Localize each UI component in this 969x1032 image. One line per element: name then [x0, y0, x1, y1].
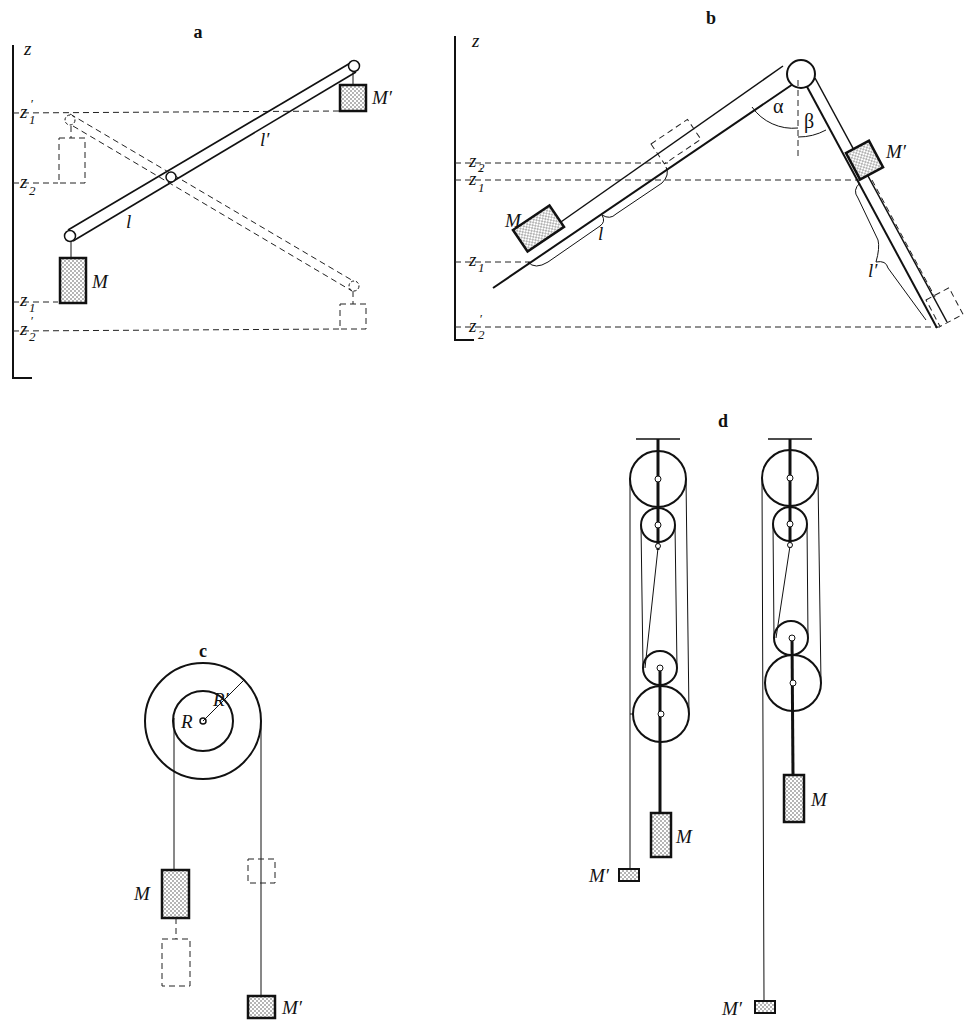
length-l-label: l — [598, 223, 603, 244]
mass-m — [60, 258, 86, 303]
mass-m-prime — [248, 996, 275, 1018]
lever-dashed — [65, 114, 359, 291]
svg-text:′: ′ — [479, 311, 482, 326]
alpha-label: α — [773, 95, 784, 117]
svg-text:′: ′ — [30, 96, 33, 111]
pulley-icon — [787, 60, 815, 88]
svg-text:2: 2 — [29, 183, 36, 198]
right-mass-m — [784, 775, 804, 822]
mass-m-prime-label: M′ — [281, 997, 303, 1018]
arm-l-prime-label: l′ — [260, 129, 270, 150]
left-mass-m — [651, 813, 671, 857]
lever-solid — [65, 61, 360, 242]
mass-m-prime-label: M′ — [371, 87, 393, 108]
panel-d-title: d — [718, 411, 728, 431]
mass-m — [162, 870, 189, 918]
panel-a-title: a — [194, 22, 203, 42]
panel-b: b z z 2 z 1 ′ z 1 z 2 ′ — [455, 8, 963, 342]
svg-text:1: 1 — [29, 112, 36, 127]
mass-m-prime-label: M′ — [885, 141, 907, 162]
length-l-prime-label: l′ — [868, 260, 878, 281]
beta-label: β — [804, 110, 814, 133]
svg-text:z: z — [19, 289, 28, 310]
svg-text:z: z — [19, 318, 28, 339]
left-mass-m-prime-label: M′ — [588, 865, 610, 886]
pivot-icon — [166, 172, 176, 182]
svg-text:z: z — [468, 249, 477, 270]
panel-c-title: c — [199, 641, 207, 661]
z-axis-label: z — [23, 38, 32, 59]
length-brace-right — [855, 183, 926, 320]
pulley-system-right: M M′ — [721, 439, 828, 1019]
radius-r-label: R — [180, 711, 193, 732]
arm-l-label: l — [126, 211, 131, 232]
svg-text:z: z — [468, 168, 477, 189]
mass-m-label: M — [133, 883, 151, 904]
tick-z1-prime: z 1 ′ — [19, 96, 36, 127]
mass-m-ghost — [162, 939, 190, 986]
svg-text:z: z — [19, 101, 28, 122]
tick-z2-prime: z 2 ′ — [19, 313, 36, 344]
tick-z2: z 2 — [19, 171, 36, 198]
mass-m-ghost — [59, 138, 85, 183]
mechanics-figure: a z z 1 ′ z 2 z 1 z 2 ′ — [0, 0, 969, 1032]
panel-c: c R R′ M M′ — [133, 641, 303, 1018]
svg-text:z: z — [19, 171, 28, 192]
svg-text:2: 2 — [478, 327, 485, 342]
radius-r-prime-label: R′ — [212, 689, 230, 710]
panel-a: a z z 1 ′ z 2 z 1 z 2 ′ — [13, 22, 393, 378]
mass-m-prime-ghost — [340, 304, 366, 329]
svg-text:1: 1 — [478, 180, 485, 195]
right-mass-m-label: M — [810, 789, 828, 810]
left-mass-m-prime — [619, 869, 639, 881]
panel-d: d M M′ — [588, 411, 828, 1019]
svg-text:′: ′ — [479, 164, 482, 179]
mass-m-label: M — [91, 271, 109, 292]
right-mass-m-prime-label: M′ — [721, 998, 743, 1019]
panel-b-title: b — [706, 8, 716, 28]
pulley-system-left: M M′ — [588, 439, 693, 886]
svg-text:′: ′ — [30, 313, 33, 328]
right-mass-m-prime — [755, 1001, 775, 1013]
left-mass-m-label: M — [675, 826, 693, 847]
z-axis-label: z — [471, 30, 480, 51]
svg-text:z: z — [468, 315, 477, 336]
mass-m-prime — [340, 85, 366, 111]
mass-m-label: M — [504, 210, 522, 231]
